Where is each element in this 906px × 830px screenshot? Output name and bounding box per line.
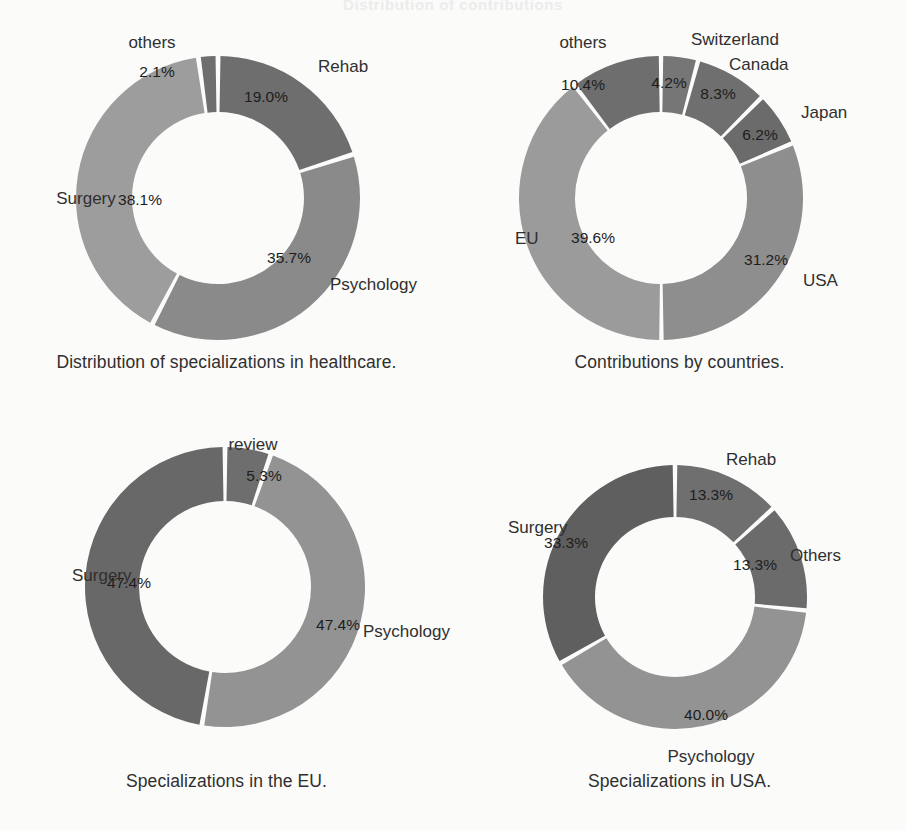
slice-category-label: Others [790,546,841,565]
slice-percent-label: 35.7% [267,249,311,266]
slice-percent-label: 38.1% [118,191,162,208]
donut-slice-usa[interactable] [663,145,803,340]
figure-panel-countries: 10.4%4.2%8.3%6.2%31.2%39.6%othersSwitzer… [453,0,906,415]
figure-panel-eu: 5.3%47.4%47.4%reviewSurgeryPsychology Sp… [0,415,453,830]
slice-percent-label: 5.3% [246,467,282,484]
slice-category-label: Japan [801,103,847,122]
slice-category-label: Canada [729,55,789,74]
donut-slice-surgery[interactable] [85,447,223,725]
caption-usa: Specializations in USA. [453,771,906,792]
donut-svg-eu: 5.3%47.4%47.4%reviewSurgeryPsychology [0,415,453,793]
slice-category-label: others [559,33,606,52]
figure-grid: 2.1%19.0%35.7%38.1%othersRehabPsychology… [0,0,906,830]
donut-chart-usa: 13.3%13.3%40.0%33.3%RehabOthersPsycholog… [453,415,906,793]
figure-panel-healthcare: 2.1%19.0%35.7%38.1%othersRehabPsychology… [0,0,453,415]
slice-category-label: Surgery [56,189,116,208]
slice-percent-label: 31.2% [744,251,788,268]
donut-slice-psychology[interactable] [155,157,360,340]
donut-chart-healthcare: 2.1%19.0%35.7%38.1%othersRehabPsychology… [0,0,453,378]
slice-percent-label: 8.3% [700,85,736,102]
slice-percent-label: 13.3% [733,556,777,573]
donut-slice-eu[interactable] [519,87,660,340]
caption-countries: Contributions by countries. [453,352,906,373]
donut-chart-eu: 5.3%47.4%47.4%reviewSurgeryPsychology [0,415,453,793]
figure-panel-usa: 13.3%13.3%40.0%33.3%RehabOthersPsycholog… [453,415,906,830]
slice-percent-label: 10.4% [561,76,605,93]
slice-percent-label: 2.1% [139,63,175,80]
slice-percent-label: 40.0% [684,706,728,723]
slice-percent-label: 39.6% [571,229,615,246]
slice-category-label: Switzerland [691,30,779,49]
slice-percent-label: 19.0% [244,88,288,105]
slice-category-label: EU [515,229,539,248]
slice-percent-label: 4.2% [651,74,687,91]
slice-category-label: Surgery [508,518,568,537]
slice-category-label: USA [803,271,839,290]
slice-percent-label: 47.4% [316,616,360,633]
caption-healthcare: Distribution of specializations in healt… [0,352,453,373]
caption-eu: Specializations in the EU. [0,771,453,792]
slice-percent-label: 13.3% [689,486,733,503]
donut-svg-countries: 10.4%4.2%8.3%6.2%31.2%39.6%othersSwitzer… [453,0,906,378]
slice-category-label: Psychology [330,275,417,294]
slice-category-label: Rehab [726,450,776,469]
slice-category-label: Surgery [72,566,132,585]
donut-svg-healthcare: 2.1%19.0%35.7%38.1%othersRehabPsychology… [0,0,453,378]
donut-svg-usa: 13.3%13.3%40.0%33.3%RehabOthersPsycholog… [453,415,906,793]
slice-category-label: review [228,435,278,454]
slice-category-label: Psychology [363,622,450,641]
donut-chart-countries: 10.4%4.2%8.3%6.2%31.2%39.6%othersSwitzer… [453,0,906,378]
donut-slice-surgery[interactable] [543,465,674,661]
slice-percent-label: 6.2% [742,126,778,143]
slice-category-label: Psychology [668,747,755,766]
slice-category-label: Rehab [318,57,368,76]
slice-category-label: others [128,33,175,52]
